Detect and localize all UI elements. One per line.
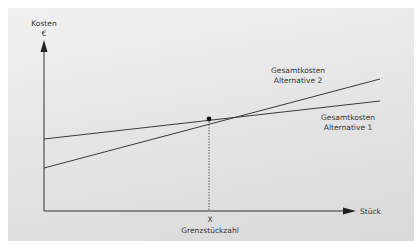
y-axis-arrow-icon [41, 40, 48, 52]
y-axis-unit: € [42, 29, 47, 38]
break-even-x-label: X [207, 215, 212, 224]
y-axis-label: Kosten [31, 19, 57, 28]
break-even-diagram: Kosten € Stück Gesamtkosten Alternative … [0, 0, 418, 248]
x-axis-label: Stück [360, 207, 382, 216]
alt1-label-line1: Gesamtkosten [321, 113, 375, 122]
alt2-label-line2: Alternative 2 [274, 76, 323, 85]
intersection-point [207, 117, 212, 122]
x-axis-arrow-icon [343, 208, 356, 215]
break-even-caption: Grenzstückzahl [181, 226, 238, 235]
alt2-label-line1: Gesamtkosten [271, 66, 325, 75]
alt1-label-line2: Alternative 1 [324, 123, 373, 132]
